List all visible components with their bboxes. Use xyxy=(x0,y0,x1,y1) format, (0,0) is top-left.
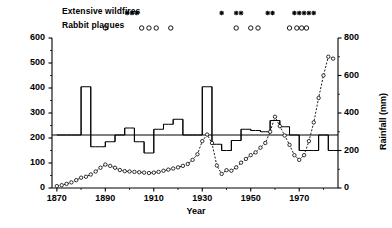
rainfall-data-point xyxy=(162,169,165,172)
rainfall-data-point xyxy=(79,176,82,179)
wildfire-event-marker xyxy=(265,11,270,16)
rainfall-data-point xyxy=(278,124,281,127)
rainfall-data-point xyxy=(108,164,111,167)
wildfire-event-marker xyxy=(307,11,312,16)
rainfall-data-point xyxy=(142,171,145,174)
x-axis-tick-label: 1910 xyxy=(134,193,174,203)
rabbit-plague-event-marker xyxy=(295,26,299,30)
rainfall-data-point xyxy=(181,164,184,167)
rainfall-data-point xyxy=(259,146,262,149)
step-series-path xyxy=(57,87,338,153)
rainfall-data-point xyxy=(75,178,78,181)
y-axis-left-tick-label: 0 xyxy=(15,182,45,192)
rainfall-data-point xyxy=(84,175,87,178)
wildfire-event-marker xyxy=(234,11,239,16)
rainfall-data-point xyxy=(283,134,286,137)
rabbit-plague-event-marker xyxy=(287,26,291,30)
y-axis-right-title: Rainfall (mm) xyxy=(378,50,388,150)
rainfall-data-point xyxy=(210,141,213,144)
wildfire-event-marker xyxy=(219,11,224,16)
legend-label-rabbit-plagues: Rabbit plagues xyxy=(62,20,124,30)
rainfall-data-point xyxy=(99,166,102,169)
y-axis-left-tick-label: 200 xyxy=(15,132,45,142)
rainfall-data-point xyxy=(298,158,301,161)
legend-label-wildfires: Extensive wildfires xyxy=(62,6,140,16)
x-axis-tick-label: 1870 xyxy=(37,193,77,203)
y-axis-right-tick-label: 600 xyxy=(344,70,374,80)
rainfall-data-point xyxy=(60,183,63,186)
x-axis-tick-label: 1950 xyxy=(231,193,271,203)
rainfall-data-point xyxy=(254,151,257,154)
rainfall-data-point xyxy=(239,161,242,164)
rabbit-plague-event-marker xyxy=(234,26,238,30)
x-axis-title: Year xyxy=(0,206,392,216)
rainfall-dotted-path xyxy=(57,57,333,186)
rainfall-data-point xyxy=(322,74,325,77)
rainfall-data-point xyxy=(331,57,334,60)
y-axis-right-tick-label: 0 xyxy=(344,182,374,192)
rainfall-data-point xyxy=(220,172,223,175)
rabbit-plague-event-marker xyxy=(304,26,308,30)
y-axis-right-tick-label: 200 xyxy=(344,145,374,155)
rainfall-data-point xyxy=(307,139,310,142)
y-axis-left-tick-label: 300 xyxy=(15,107,45,117)
wildfire-event-marker xyxy=(297,11,302,16)
rainfall-data-point xyxy=(288,143,291,146)
rainfall-data-point xyxy=(293,153,296,156)
rainfall-data-point xyxy=(167,168,170,171)
wildfire-event-marker xyxy=(270,11,275,16)
rainfall-data-point xyxy=(157,170,160,173)
rainfall-data-point xyxy=(327,55,330,58)
rainfall-data-point xyxy=(268,130,271,133)
rainfall-data-point xyxy=(312,121,315,124)
rainfall-data-point xyxy=(123,169,126,172)
y-axis-left-tick-label: 600 xyxy=(15,32,45,42)
rainfall-data-point xyxy=(196,153,199,156)
rainfall-data-point xyxy=(89,173,92,176)
rainfall-data-point xyxy=(113,166,116,169)
rainfall-data-point xyxy=(94,170,97,173)
rainfall-data-point xyxy=(186,162,189,165)
x-axis-tick-label: 1890 xyxy=(85,193,125,203)
wildfire-event-marker xyxy=(302,11,307,16)
rabbit-plague-event-marker xyxy=(169,26,173,30)
rabbit-plague-event-marker xyxy=(299,26,303,30)
rainfall-data-point xyxy=(215,164,218,167)
rainfall-event-chart: Extensive wildfires Rabbit plagues 01002… xyxy=(0,0,392,228)
wildfire-event-marker xyxy=(292,11,297,16)
rabbit-plague-event-marker xyxy=(139,26,143,30)
rainfall-data-point xyxy=(152,171,155,174)
rainfall-data-point xyxy=(147,171,150,174)
rainfall-data-point xyxy=(191,158,194,161)
rainfall-data-point xyxy=(230,169,233,172)
rainfall-data-point xyxy=(133,170,136,173)
rainfall-data-point xyxy=(205,133,208,136)
rainfall-data-point xyxy=(264,141,267,144)
rainfall-data-point xyxy=(118,168,121,171)
x-axis-tick-label: 1970 xyxy=(279,193,319,203)
wildfire-event-marker xyxy=(311,11,316,16)
rainfall-data-point xyxy=(128,170,131,173)
rainfall-data-point xyxy=(225,168,228,171)
rabbit-plague-event-marker xyxy=(249,26,253,30)
rainfall-data-point xyxy=(201,139,204,142)
wildfire-event-marker xyxy=(239,11,244,16)
rabbit-plague-event-marker xyxy=(256,26,260,30)
rainfall-data-point xyxy=(244,157,247,160)
rabbit-plague-event-marker xyxy=(147,26,151,30)
rainfall-data-point xyxy=(302,153,305,156)
y-axis-left-tick-label: 100 xyxy=(15,157,45,167)
y-axis-left-tick-label: 400 xyxy=(15,82,45,92)
rainfall-data-point xyxy=(65,182,68,185)
rainfall-data-point xyxy=(70,181,73,184)
rainfall-data-point xyxy=(171,167,174,170)
y-axis-left-tick-label: 500 xyxy=(15,57,45,67)
rainfall-data-point xyxy=(55,184,58,187)
rabbit-plague-event-marker xyxy=(154,26,158,30)
rainfall-data-point xyxy=(317,96,320,99)
rainfall-data-point xyxy=(138,171,141,174)
y-axis-right-tick-label: 800 xyxy=(344,32,374,42)
rainfall-data-point xyxy=(176,166,179,169)
rainfall-data-point xyxy=(104,163,107,166)
y-axis-right-tick-label: 400 xyxy=(344,107,374,117)
